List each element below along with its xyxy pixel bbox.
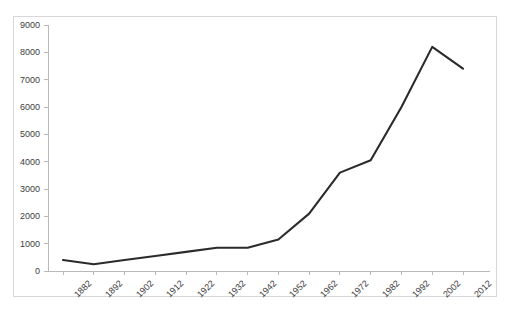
x-tick-label: 1952 xyxy=(288,279,309,300)
x-tick-label: 1992 xyxy=(411,279,432,300)
x-axis-tick-labels: 1882189219021912192219321942195219621972… xyxy=(0,0,509,321)
x-tick-label: 1932 xyxy=(227,279,248,300)
x-tick-label: 1882 xyxy=(73,279,94,300)
x-tick-label: 1892 xyxy=(104,279,125,300)
chart-figure: 0100020003000400050006000700080009000 18… xyxy=(0,0,509,321)
x-tick-label: 2002 xyxy=(442,279,463,300)
x-tick-label: 1922 xyxy=(196,279,217,300)
x-tick-label: 1912 xyxy=(165,279,186,300)
x-tick-label: 1942 xyxy=(257,279,278,300)
x-tick-label: 2012 xyxy=(473,279,494,300)
x-tick-label: 1972 xyxy=(350,279,371,300)
x-tick-label: 1962 xyxy=(319,279,340,300)
x-tick-label: 1982 xyxy=(381,279,402,300)
x-tick-label: 1902 xyxy=(134,279,155,300)
